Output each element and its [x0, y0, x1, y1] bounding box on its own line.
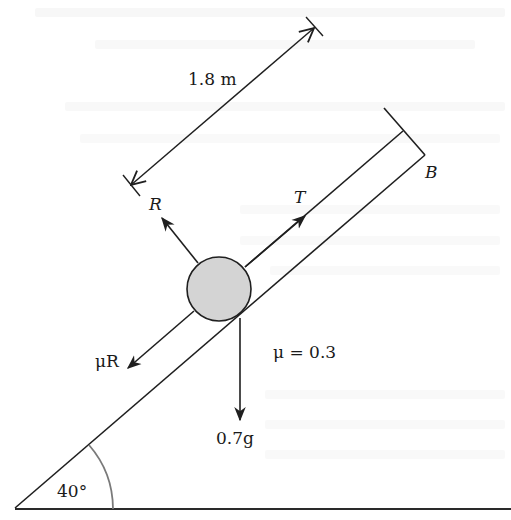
dimension-tick-bottom	[123, 175, 140, 196]
diagram-canvas: 1.8 m R T B μR μ = 0.3 0.7g 40°	[0, 0, 511, 520]
point-b-label: B	[424, 162, 438, 182]
angle-arc	[89, 445, 113, 509]
normal-reaction-label: R	[148, 194, 162, 214]
end-wall	[384, 108, 425, 155]
normal-reaction-arrow	[162, 218, 198, 263]
ball	[187, 257, 251, 321]
incline-diagram: 1.8 m R T B μR μ = 0.3 0.7g 40°	[0, 0, 511, 520]
tension-arrow	[245, 216, 305, 267]
length-label: 1.8 m	[188, 69, 237, 89]
length-dimension-line	[131, 28, 314, 185]
angle-label: 40°	[57, 481, 87, 501]
friction-arrow	[128, 311, 194, 368]
friction-label: μR	[95, 351, 120, 371]
tension-label: T	[294, 187, 307, 207]
incline-surface	[15, 155, 425, 508]
coefficient-label: μ = 0.3	[273, 342, 336, 362]
weight-label: 0.7g	[216, 428, 254, 448]
